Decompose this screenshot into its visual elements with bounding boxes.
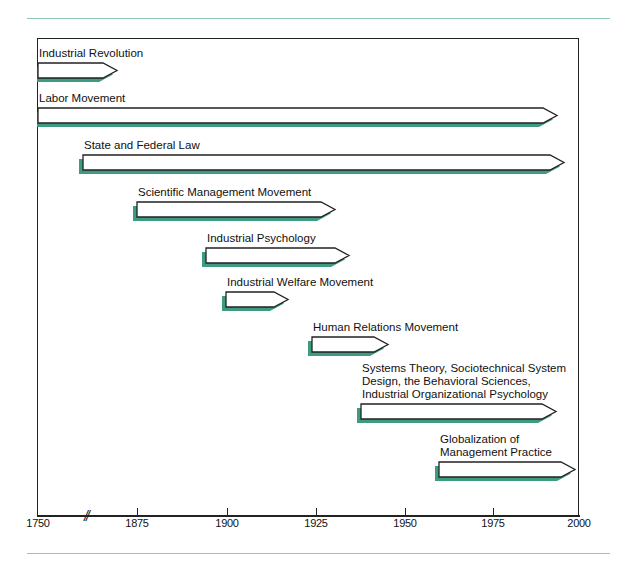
axis-tick-label: 2000 bbox=[567, 517, 590, 529]
axis-tick bbox=[405, 508, 406, 516]
bar-label: Industrial Revolution bbox=[39, 47, 143, 60]
bar-label: State and Federal Law bbox=[84, 139, 200, 152]
axis-tick bbox=[316, 508, 317, 516]
timeline-bar bbox=[439, 462, 575, 477]
bar-label-line: Design, the Behavioral Sciences, bbox=[362, 375, 566, 388]
bar-label: Systems Theory, Sociotechnical SystemDes… bbox=[362, 362, 566, 401]
bar-label-line: Industrial Revolution bbox=[39, 47, 143, 60]
bar-label: Human Relations Movement bbox=[313, 321, 458, 334]
axis-tick bbox=[493, 508, 494, 516]
axis-tick-label: 1750 bbox=[26, 517, 49, 529]
bar-label-line: Scientific Management Movement bbox=[138, 186, 311, 199]
bar-label: Scientific Management Movement bbox=[138, 186, 311, 199]
bar-label-line: Systems Theory, Sociotechnical System bbox=[362, 362, 566, 375]
timeline-bar bbox=[38, 108, 557, 123]
axis-tick-label: 1950 bbox=[393, 517, 416, 529]
timeline-bar bbox=[83, 155, 564, 170]
bar-label: Globalization ofManagement Practice bbox=[440, 433, 552, 459]
bar-label-line: Industrial Organizational Psychology bbox=[362, 388, 566, 401]
bar-label-line: State and Federal Law bbox=[84, 139, 200, 152]
bar-label: Industrial Psychology bbox=[207, 232, 316, 245]
timeline-bar bbox=[206, 248, 349, 263]
axis-tick-label: 1875 bbox=[125, 517, 148, 529]
bar-label-line: Globalization of bbox=[440, 433, 552, 446]
axis-break-mark: // bbox=[84, 508, 88, 524]
timeline-bar bbox=[38, 63, 117, 78]
timeline-bar bbox=[137, 202, 335, 217]
bar-label-line: Labor Movement bbox=[39, 92, 125, 105]
axis-tick-label: 1925 bbox=[304, 517, 327, 529]
timeline-bar bbox=[226, 292, 288, 307]
axis-tick bbox=[137, 508, 138, 516]
bar-label: Labor Movement bbox=[39, 92, 125, 105]
bar-label-line: Management Practice bbox=[440, 446, 552, 459]
timeline-bar bbox=[312, 337, 388, 352]
timeline-bar bbox=[361, 404, 556, 419]
bar-label: Industrial Welfare Movement bbox=[227, 276, 373, 289]
axis-tick-label: 1900 bbox=[215, 517, 238, 529]
bar-label-line: Industrial Psychology bbox=[207, 232, 316, 245]
bar-label-line: Industrial Welfare Movement bbox=[227, 276, 373, 289]
bar-label-line: Human Relations Movement bbox=[313, 321, 458, 334]
axis-tick bbox=[227, 508, 228, 516]
axis-tick-label: 1975 bbox=[481, 517, 504, 529]
